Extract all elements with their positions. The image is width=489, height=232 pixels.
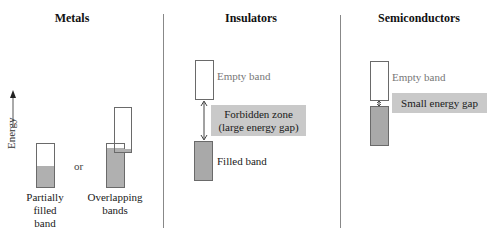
small-gap-arrow-icon <box>0 0 489 232</box>
band-theory-diagram: Metals Energy Partially filled band or O… <box>0 0 489 232</box>
small-energy-gap-box: Small energy gap <box>392 93 487 113</box>
semiconductor-filled-band <box>370 106 389 146</box>
